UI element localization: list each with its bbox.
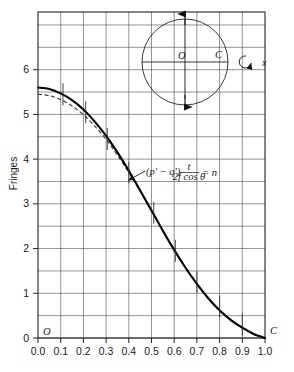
y-axis-tick-labels: 0123456 (23, 63, 29, 343)
formula-denominator: 2f cos θ (173, 171, 206, 182)
svg-text:6: 6 (23, 63, 29, 75)
svg-text:0.6: 0.6 (167, 345, 182, 357)
svg-text:1: 1 (23, 287, 29, 299)
svg-text:0.3: 0.3 (99, 345, 114, 357)
x-axis-ticks (38, 338, 265, 343)
svg-text:0.5: 0.5 (144, 345, 159, 357)
svg-text:0: 0 (23, 332, 29, 344)
inset-label-o: O (178, 50, 186, 61)
y-axis-title: Fringes (8, 139, 19, 209)
corner-letter-c: C (270, 325, 278, 336)
formula-equals: = n (202, 167, 217, 178)
svg-text:4: 4 (23, 153, 29, 165)
inset-axis-label-x: x (261, 57, 267, 68)
fringes-chart-figure: 0123456 0.00.10.20.30.40.50.60.70.80.91.… (0, 0, 294, 372)
svg-text:0.7: 0.7 (190, 345, 205, 357)
svg-text:0.4: 0.4 (121, 345, 136, 357)
svg-text:0.9: 0.9 (235, 345, 250, 357)
svg-text:0.2: 0.2 (76, 345, 91, 357)
origin-letter-o: O (43, 326, 51, 337)
svg-text:5: 5 (23, 108, 29, 120)
y-axis-ticks (33, 70, 38, 338)
svg-text:2: 2 (23, 242, 29, 254)
svg-text:0.1: 0.1 (53, 345, 68, 357)
svg-text:3: 3 (23, 197, 29, 209)
svg-text:0.0: 0.0 (31, 345, 46, 357)
inset-label-c: C (215, 49, 223, 60)
svg-text:1.0: 1.0 (258, 345, 273, 357)
svg-text:0.8: 0.8 (212, 345, 227, 357)
chart-svg: 0123456 0.00.10.20.30.40.50.60.70.80.91.… (0, 0, 294, 372)
x-axis-tick-labels: 0.00.10.20.30.40.50.60.70.80.91.0 (31, 345, 273, 357)
